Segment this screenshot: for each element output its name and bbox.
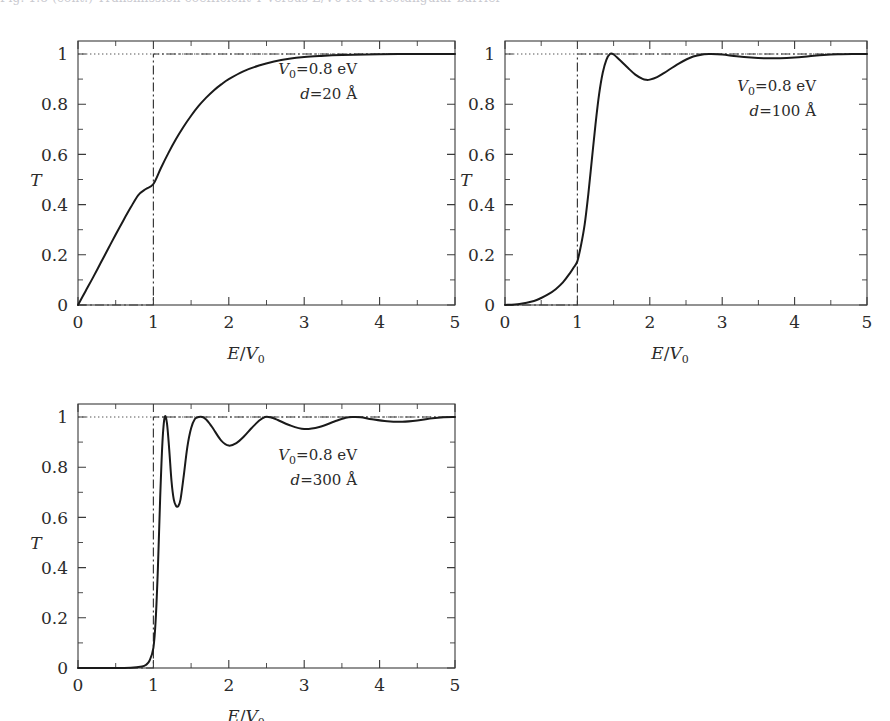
panel-a-annotation-v0: V0=0.8 eV [278, 60, 358, 81]
xtick-2: 2 [644, 312, 655, 332]
panel-b-x-axis-label-text: E/V0 [650, 343, 688, 366]
panel-c-x-axis-label-text: E/V0 [226, 706, 264, 721]
panel-c-y-axis-label: T [30, 533, 43, 553]
panel-b-x-axis-label: E/V0 [650, 343, 688, 366]
xtick-4: 4 [374, 675, 385, 695]
ytick-0: 0 [57, 295, 68, 315]
xtick-3: 3 [299, 675, 310, 695]
ytick-04: 0.4 [41, 195, 68, 215]
ytick-0: 0 [484, 295, 495, 315]
ytick-08: 0.8 [41, 457, 68, 477]
panel-b-y-axis-label: T [460, 170, 473, 190]
xtick-0: 0 [500, 312, 511, 332]
ytick-06: 0.6 [41, 145, 68, 165]
panel-a-ytick-labels: 0 0.2 0.4 0.6 0.8 1 [41, 44, 68, 315]
panel-c-ytick-labels: 0 0.2 0.4 0.6 0.8 1 [41, 407, 68, 678]
panel-a-x-axis-label-text: E/V0 [226, 343, 264, 366]
panel-c: 0 0.2 0.4 0.6 0.8 1 0 1 2 3 4 5 T E/V0 V… [30, 404, 460, 721]
xtick-4: 4 [789, 312, 800, 332]
panel-b-annotation-v0: V0=0.8 eV [737, 77, 817, 98]
panel-a-x-axis-label: E/V0 [226, 343, 264, 366]
panel-a-classical-curve [78, 54, 455, 305]
xtick-1: 1 [148, 675, 159, 695]
ytick-08: 0.8 [41, 94, 68, 114]
ytick-04: 0.4 [41, 558, 68, 578]
panel-a-xticks [78, 41, 455, 305]
panel-a: 0 0.2 0.4 0.6 0.8 1 0 1 2 3 4 5 T E/V0 V… [30, 41, 460, 366]
xtick-1: 1 [148, 312, 159, 332]
panel-a-frame [78, 41, 455, 305]
panel-a-xtick-labels: 0 1 2 3 4 5 [73, 312, 461, 332]
panel-b: 0 0.2 0.4 0.6 0.8 1 0 1 2 3 4 5 T E/V0 V… [460, 41, 872, 366]
panel-c-xtick-labels: 0 1 2 3 4 5 [73, 675, 461, 695]
panel-a-yticks [78, 54, 455, 305]
panel-c-xticks [78, 404, 455, 668]
ytick-04: 0.4 [468, 195, 495, 215]
panel-b-annotation-d: d=100 Å [750, 102, 817, 120]
ytick-02: 0.2 [41, 245, 68, 265]
xtick-5: 5 [450, 675, 461, 695]
xtick-0: 0 [73, 312, 84, 332]
ytick-02: 0.2 [468, 245, 495, 265]
ytick-02: 0.2 [41, 608, 68, 628]
panel-c-axes [78, 404, 455, 668]
transmission-coefficient-figure: 0 0.2 0.4 0.6 0.8 1 0 1 2 3 4 5 T E/V0 V… [0, 0, 890, 721]
ytick-1: 1 [57, 44, 68, 64]
panel-a-annotation: V0=0.8 eV d=20 Å [278, 60, 358, 103]
ytick-06: 0.6 [468, 145, 495, 165]
xtick-1: 1 [572, 312, 583, 332]
ytick-1: 1 [57, 407, 68, 427]
panel-c-frame [78, 404, 455, 668]
ytick-06: 0.6 [41, 508, 68, 528]
xtick-3: 3 [299, 312, 310, 332]
panel-a-transmission-curve [78, 54, 455, 305]
panel-c-yticks [78, 417, 455, 668]
panel-b-ytick-labels: 0 0.2 0.4 0.6 0.8 1 [468, 44, 495, 315]
panel-c-classical-curve [78, 417, 455, 668]
panel-b-annotation: V0=0.8 eV d=100 Å [737, 77, 817, 120]
panel-b-xtick-labels: 0 1 2 3 4 5 [500, 312, 873, 332]
xtick-2: 2 [223, 312, 234, 332]
panel-c-annotation-v0: V0=0.8 eV [278, 446, 358, 467]
xtick-0: 0 [73, 675, 84, 695]
panel-a-axes [78, 41, 455, 305]
xtick-3: 3 [717, 312, 728, 332]
xtick-2: 2 [223, 675, 234, 695]
panel-c-annotation-d: d=300 Å [291, 471, 358, 489]
ytick-0: 0 [57, 658, 68, 678]
panel-a-y-axis-label: T [30, 170, 43, 190]
xtick-5: 5 [862, 312, 873, 332]
ytick-1: 1 [484, 44, 495, 64]
panel-a-annotation-d: d=20 Å [300, 85, 357, 103]
ytick-08: 0.8 [468, 94, 495, 114]
panel-c-transmission-curve [78, 416, 455, 668]
xtick-5: 5 [450, 312, 461, 332]
panel-c-annotation: V0=0.8 eV d=300 Å [278, 446, 358, 489]
xtick-4: 4 [374, 312, 385, 332]
panel-c-x-axis-label: E/V0 [226, 706, 264, 721]
